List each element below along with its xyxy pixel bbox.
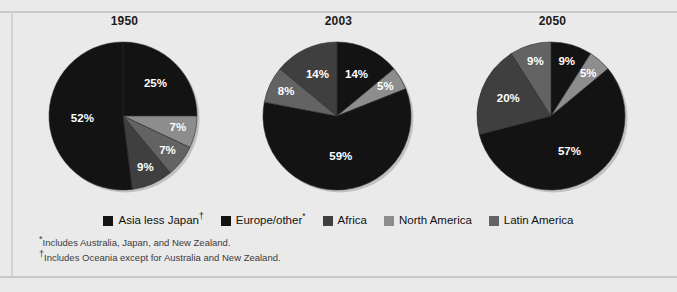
legend-label-text: Latin America <box>504 214 574 226</box>
legend-item-label: Africa <box>338 214 367 227</box>
figure-top-rule <box>0 11 677 13</box>
legend-item-label: Europe/other* <box>236 214 306 227</box>
legend-item-europe-other[interactable]: Europe/other* <box>221 214 306 227</box>
chart-title: 2003 <box>325 14 353 28</box>
slice-label: 14% <box>345 68 368 80</box>
chart-block-1950: 195025%7%7%9%52% <box>18 14 232 202</box>
slice-label: 59% <box>329 150 352 162</box>
slice-label: 9% <box>137 161 154 173</box>
pie-chart-2003: 14%5%59%8%14% <box>255 34 423 202</box>
footnote-text: Includes Oceania except for Australia an… <box>44 252 281 263</box>
chart-legend: Asia less Japan†Europe/other*AfricaNorth… <box>0 214 677 227</box>
slice-label: 20% <box>496 92 519 104</box>
legend-item-asia-less-japan[interactable]: Asia less Japan† <box>103 214 203 227</box>
legend-footnote-mark: * <box>302 211 305 221</box>
charts-row: 195025%7%7%9%52%200314%5%59%8%14%20509%5… <box>0 14 677 210</box>
slice-label: 5% <box>377 80 394 92</box>
legend-label-text: Asia less Japan <box>118 214 199 226</box>
legend-item-latin-america[interactable]: Latin America <box>489 214 574 227</box>
chart-title: 1950 <box>111 14 139 28</box>
slice-label: 57% <box>557 145 580 157</box>
pie-chart-figure: 195025%7%7%9%52%200314%5%59%8%14%20509%5… <box>0 0 677 292</box>
footnote-text: Includes Australia, Japan, and New Zeala… <box>43 237 231 248</box>
slice-label: 14% <box>305 68 328 80</box>
legend-label-text: North America <box>399 214 472 226</box>
chart-title: 2050 <box>539 14 567 28</box>
chart-block-2050: 20509%5%57%20%9% <box>446 14 660 202</box>
pie-chart-2050: 9%5%57%20%9% <box>469 34 637 202</box>
legend-item-label: Asia less Japan† <box>118 214 203 227</box>
slice-label: 9% <box>558 55 575 67</box>
slice-label: 9% <box>526 55 543 67</box>
legend-swatch-icon <box>221 216 231 226</box>
legend-swatch-icon <box>384 216 394 226</box>
legend-item-label: Latin America <box>504 214 574 227</box>
slice-label: 8% <box>277 85 294 97</box>
legend-swatch-icon <box>323 216 333 226</box>
legend-item-north-america[interactable]: North America <box>384 214 472 227</box>
slice-label: 7% <box>159 144 176 156</box>
footnote: *Includes Australia, Japan, and New Zeal… <box>39 237 281 249</box>
legend-item-africa[interactable]: Africa <box>323 214 367 227</box>
chart-block-2003: 200314%5%59%8%14% <box>232 14 446 202</box>
legend-swatch-icon <box>489 216 499 226</box>
legend-label-text: Europe/other <box>236 214 303 226</box>
legend-label-text: Africa <box>338 214 367 226</box>
footnotes: *Includes Australia, Japan, and New Zeal… <box>39 237 281 264</box>
slice-label: 5% <box>579 67 596 79</box>
slice-label: 7% <box>169 121 186 133</box>
slice-label: 52% <box>70 112 93 124</box>
legend-footnote-mark: † <box>199 211 204 221</box>
figure-bottom-rule <box>0 276 677 278</box>
footnote: †Includes Oceania except for Australia a… <box>39 252 281 264</box>
pie-chart-1950: 25%7%7%9%52% <box>41 34 209 202</box>
legend-item-label: North America <box>399 214 472 227</box>
slice-label: 25% <box>143 77 166 89</box>
legend-swatch-icon <box>103 216 113 226</box>
